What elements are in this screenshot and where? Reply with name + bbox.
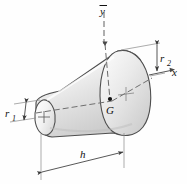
y-axis-arrowhead [102, 41, 107, 46]
frustum-large-face [100, 50, 151, 135]
r1-dimension-line [24, 103, 26, 120]
height-label: h [80, 148, 86, 160]
truncated-cone-figure: y x G r 2 r 1 h [0, 0, 187, 184]
centroid-point [108, 97, 112, 101]
y-axis-label: y [99, 5, 105, 17]
r2-extension-top [121, 43, 160, 50]
frustum-diagram-svg: y x G r 2 r 1 h [0, 0, 187, 184]
radius-small-subscript: 1 [12, 114, 16, 123]
radius-small-label: r [5, 107, 10, 119]
centroid-label: G [106, 104, 114, 116]
x-axis-label: x [171, 66, 177, 78]
radius-large-label: r [160, 52, 165, 64]
radius-large-subscript: 2 [167, 59, 171, 68]
frustum-small-face [35, 100, 55, 135]
x-axis-ray [149, 70, 173, 75]
frustum-solid [35, 50, 151, 137]
